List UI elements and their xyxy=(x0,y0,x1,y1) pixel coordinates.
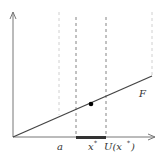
label-neighborhood-sup: * xyxy=(127,139,130,146)
label-neighborhood: U(x xyxy=(104,141,122,152)
label-neighborhood-close: ) xyxy=(130,141,135,152)
curve-F xyxy=(13,76,152,137)
label-x-star-sup: * xyxy=(94,139,97,146)
diagram-canvas: a x * U(x * ) F xyxy=(0,0,164,166)
label-F: F xyxy=(138,88,147,99)
label-a: a xyxy=(57,141,63,152)
point-x-star xyxy=(89,102,94,107)
